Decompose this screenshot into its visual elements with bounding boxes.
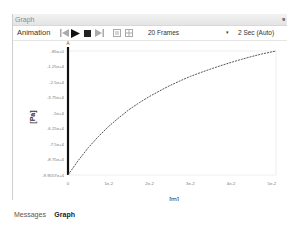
line-chart: A-85e+0-1.25e+4-2.5e+4-3.75e+4-5e+4-6.25…	[13, 41, 287, 201]
y-tick-label: -85e+0	[51, 49, 65, 54]
stop-icon[interactable]	[82, 28, 92, 38]
x-tick-label: 2e-2	[145, 181, 154, 186]
settings-frames-icon[interactable]	[124, 28, 134, 38]
pin-icon[interactable]: ᵍ	[282, 14, 285, 25]
y-tick-label: -2.5e+4	[49, 80, 64, 85]
chart-area: A-85e+0-1.25e+4-2.5e+4-3.75e+4-5e+4-6.25…	[13, 41, 287, 201]
data-line	[68, 51, 276, 175]
y-tick-label: -9.9557e+4	[42, 173, 64, 178]
speed-select[interactable]: 2 Sec (Auto)	[238, 29, 274, 36]
animation-toolbar: Animation 20 Frames ▾ 2 Sec (Auto)	[13, 26, 287, 41]
export-frames-icon[interactable]	[112, 28, 122, 38]
animation-label: Animation	[17, 28, 50, 37]
tab-graph[interactable]: Graph	[54, 211, 75, 218]
x-axis-label: [m]	[169, 196, 179, 201]
x-tick-label: 4e-2	[227, 181, 236, 186]
panel-titlebar: Graph ᵍ	[13, 14, 287, 26]
y-tick-label: -5e+4	[53, 111, 65, 116]
graph-panel: Graph ᵍ Animation 20 Frames ▾ 2 Sec (Aut…	[12, 14, 287, 200]
play-icon[interactable]	[70, 28, 80, 38]
x-tick-label: 3e-2	[186, 181, 195, 186]
axis-marker-label: A	[66, 41, 69, 46]
y-tick-label: -6.25e+4	[47, 126, 65, 131]
plot-frame	[68, 51, 276, 175]
panel-title: Graph	[15, 14, 34, 25]
chevron-down-icon[interactable]: ▾	[226, 29, 229, 35]
y-tick-label: -8.75e+4	[47, 157, 65, 162]
y-tick-label: -3.75e+4	[47, 95, 65, 100]
first-frame-icon[interactable]	[59, 28, 69, 38]
x-tick-label: 1e-2	[104, 181, 113, 186]
y-tick-label: -1.25e+4	[47, 64, 65, 69]
frames-select[interactable]: 20 Frames	[148, 29, 179, 36]
tab-messages[interactable]: Messages	[14, 211, 46, 218]
last-frame-icon[interactable]	[94, 28, 104, 38]
x-tick-label: 0	[67, 181, 70, 186]
y-axis-label: [Pa]	[29, 110, 37, 123]
bottom-tabs: Messages Graph	[14, 203, 79, 215]
y-tick-label: -7.5e+4	[49, 142, 64, 147]
x-tick-label: 5e-2	[268, 181, 277, 186]
